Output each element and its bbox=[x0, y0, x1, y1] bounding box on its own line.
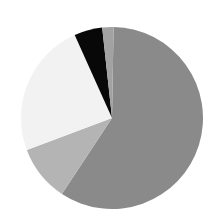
pie-chart bbox=[0, 0, 223, 224]
pie-chart-canvas bbox=[0, 0, 223, 224]
